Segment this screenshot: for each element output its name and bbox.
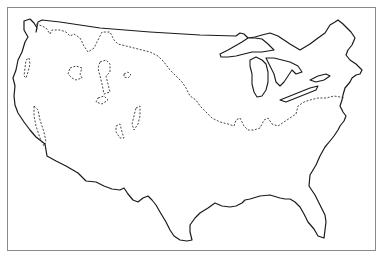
pluvial-lake xyxy=(116,124,124,138)
great-lakes xyxy=(220,38,330,102)
lake-erie xyxy=(280,86,318,102)
us-outline xyxy=(13,19,362,241)
pluvial-lake xyxy=(68,66,82,80)
pluvial-lakes xyxy=(24,58,140,146)
pluvial-lake xyxy=(24,58,30,78)
lake-superior xyxy=(220,38,274,57)
lake-michigan xyxy=(250,57,268,97)
lake-huron xyxy=(266,58,302,86)
us-map xyxy=(0,0,384,260)
pluvial-lake-bonneville xyxy=(98,60,110,94)
pluvial-lake xyxy=(96,96,108,104)
pluvial-lake xyxy=(132,106,140,130)
pluvial-lake xyxy=(124,72,131,78)
glacial-boundary-dashed-line xyxy=(36,24,345,130)
lake-ontario xyxy=(310,74,330,82)
